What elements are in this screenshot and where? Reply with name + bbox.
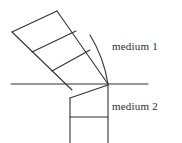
incident-beam-group	[12, 11, 108, 90]
refracted-wavefront-1	[70, 85, 108, 98]
incident-beam-edge-left	[12, 32, 72, 90]
refracted-beam-group	[70, 84, 108, 143]
refraction-diagram	[0, 0, 182, 143]
curved-wavefront-group	[90, 35, 108, 84]
label-medium-1: medium 1	[112, 41, 158, 52]
figure-canvas: medium 1 medium 2	[0, 0, 182, 143]
incident-beam-edge-right	[57, 11, 108, 84]
incident-wavefront-3	[52, 50, 90, 71]
refracted-wavefronts-group	[70, 85, 108, 117]
incident-wavefront-1	[12, 11, 57, 32]
curved-wavefront-arc	[90, 35, 108, 84]
label-medium-2: medium 2	[112, 101, 158, 112]
incident-wavefront-2	[32, 31, 76, 52]
